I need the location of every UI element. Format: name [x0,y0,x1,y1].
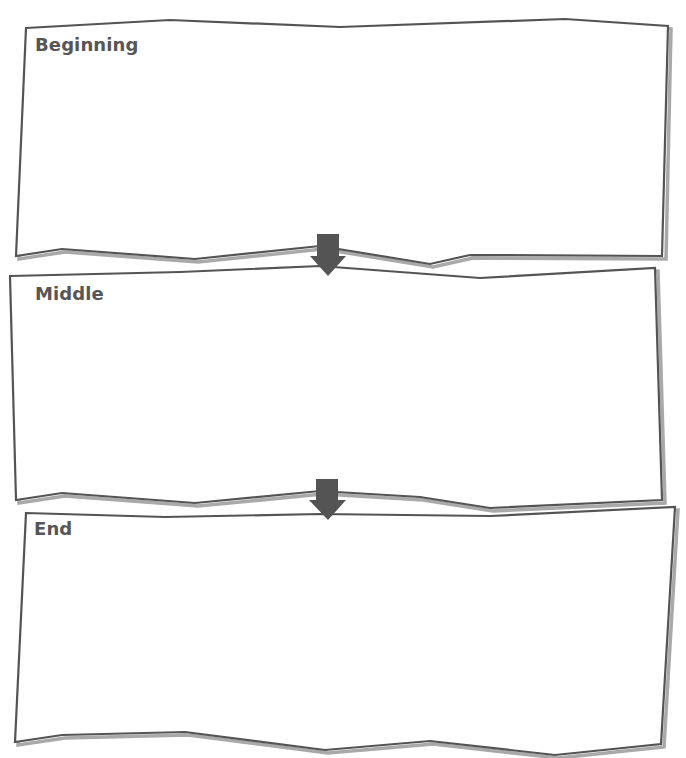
frame-beginning-label: Beginning [35,36,138,54]
frame-end-label: End [34,520,72,538]
story-sequence-worksheet: Beginning Middle End [0,0,686,758]
end-answer-area[interactable] [30,548,654,728]
middle-answer-area[interactable] [24,312,648,484]
beginning-answer-area[interactable] [30,64,654,238]
frame-middle-label: Middle [35,285,104,303]
